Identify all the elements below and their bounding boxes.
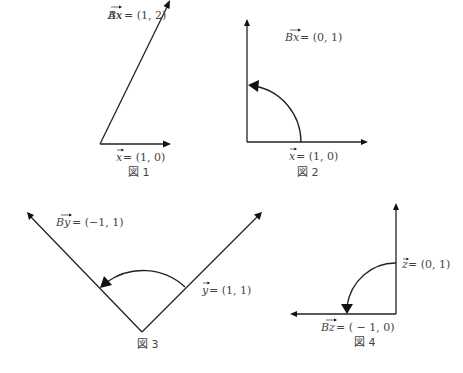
arrowhead-icon (393, 203, 399, 210)
label-y-name: y (201, 284, 209, 297)
label-y: y = (1, 1) (201, 282, 251, 298)
arrowhead-icon (163, 141, 171, 148)
label-z-name: z (401, 258, 408, 271)
label-By-name: By (55, 216, 71, 229)
label-x-fig2: x = (1, 0) (289, 148, 338, 164)
figure-4: z = (0, 1) Bz = ( − 1, 0) 図 4 (290, 203, 450, 349)
label-z-value: = (0, 1) (408, 258, 450, 271)
vector-y-arrow (142, 216, 258, 332)
label-x-value: = (1, 0) (296, 150, 338, 163)
figure-2: Bx = (0, 1) x = (1, 0) 図 2 (244, 19, 368, 179)
vector-By-arrow (30, 216, 142, 332)
arrowhead-icon (341, 304, 353, 314)
label-Ax: Bx Ax = (1, 2) (107, 6, 166, 23)
label-x-value: = (1, 0) (123, 151, 165, 164)
label-y-value: = (1, 1) (209, 284, 251, 297)
arrowhead-icon (248, 80, 259, 92)
label-Bx-value: = (0, 1) (300, 31, 342, 44)
figure-caption: 図 2 (297, 166, 319, 179)
label-Bz-value: = ( − 1, 0) (336, 321, 395, 334)
label-Ax-value: = (1, 2) (124, 9, 166, 22)
label-z: z = (0, 1) (401, 258, 450, 272)
label-x-fig1: x = (1, 0) (116, 149, 165, 165)
label-x-name: x (289, 150, 296, 163)
label-Bx: Bx = (0, 1) (284, 29, 342, 45)
rotation-arc (347, 263, 396, 306)
vector-Ax-arrow (100, 5, 168, 144)
arrowhead-icon (100, 276, 112, 288)
figure-caption: 図 1 (128, 166, 150, 179)
figure-1: Bx Ax = (1, 2) x = (1, 0) 図 1 (100, 0, 171, 179)
arrowhead-icon (361, 139, 368, 145)
label-x-name: x (116, 151, 123, 164)
figure-caption: 図 4 (354, 336, 376, 349)
label-Bz-name: Bz (320, 321, 335, 334)
label-Bx-name: Bx (284, 31, 300, 44)
arrowhead-icon (290, 311, 297, 317)
rotation-arc (254, 86, 301, 142)
arrowhead-icon (244, 19, 250, 26)
label-By: By = (−1, 1) (55, 214, 124, 230)
label-By-value: = (−1, 1) (72, 216, 124, 229)
rotation-arc (107, 271, 185, 287)
figure-3: By = (−1, 1) y = (1, 1) 図 3 (27, 212, 262, 351)
vector-diagrams: Bx Ax = (1, 2) x = (1, 0) 図 1 Bx = (0, 1… (0, 0, 463, 373)
label-Bz: Bz = ( − 1, 0) (320, 319, 395, 335)
label-Ax-name: Ax (107, 9, 123, 22)
figure-caption: 図 3 (137, 338, 159, 351)
